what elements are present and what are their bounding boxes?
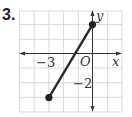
y-tick-label-neg2: −2: [73, 76, 92, 91]
origin-label: O: [80, 54, 91, 69]
x-tick-label-neg3: −3: [36, 55, 55, 70]
y-axis-label: y: [95, 8, 104, 23]
x-axis-label: x: [112, 54, 120, 69]
segment-start-point: [45, 94, 52, 101]
y-axis-down-arrow-icon: [91, 106, 95, 112]
coordinate-graph: y x O −3 −2: [0, 0, 132, 117]
